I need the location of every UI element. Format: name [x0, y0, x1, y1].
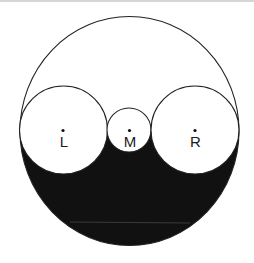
center-dot-l: [61, 129, 64, 132]
center-dot-r: [193, 129, 196, 132]
center-dot-m: [128, 129, 131, 132]
circle-diagram: L M R: [0, 0, 254, 263]
label-r: R: [190, 133, 201, 150]
label-m: M: [124, 133, 137, 150]
label-l: L: [60, 133, 68, 150]
